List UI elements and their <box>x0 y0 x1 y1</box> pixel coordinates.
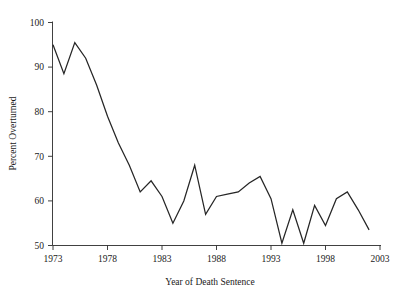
y-tick-label: 70 <box>35 152 45 162</box>
y-tick-label: 90 <box>35 62 45 72</box>
y-axis-tick-labels: 50 60 70 80 90 100 <box>30 18 45 251</box>
y-axis-title: Percent Overturned <box>8 96 18 170</box>
x-tick-label: 1993 <box>262 254 281 264</box>
y-axis-ticks <box>48 23 53 246</box>
x-tick-label: 1998 <box>316 254 335 264</box>
chart-figure: 50 60 70 80 90 100 1973 1978 1983 1988 1… <box>0 0 404 302</box>
x-axis-title: Year of Death Sentence <box>165 277 255 287</box>
x-tick-label: 1978 <box>98 254 117 264</box>
data-series-line <box>53 43 369 244</box>
x-tick-label: 1973 <box>44 254 63 264</box>
y-tick-label: 100 <box>30 18 45 28</box>
y-tick-label: 60 <box>35 196 45 206</box>
x-axis-tick-labels: 1973 1978 1983 1988 1993 1998 2003 <box>44 254 390 264</box>
x-tick-label: 1988 <box>207 254 226 264</box>
line-chart: 50 60 70 80 90 100 1973 1978 1983 1988 1… <box>0 0 404 302</box>
y-tick-label: 50 <box>35 241 45 251</box>
x-tick-label: 1983 <box>153 254 172 264</box>
x-axis-ticks <box>53 246 380 251</box>
y-tick-label: 80 <box>35 107 45 117</box>
x-tick-label: 2003 <box>371 254 390 264</box>
